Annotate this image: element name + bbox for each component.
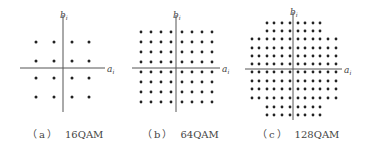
constellation-point [88,77,91,80]
constellation-point [266,106,269,109]
constellation-point [304,97,307,100]
constellation-point [335,63,338,66]
constellation-point [289,114,292,117]
constellation-point [297,63,300,66]
constellation-point [289,30,292,33]
constellation-point [251,80,254,83]
constellation-point [251,55,254,58]
constellation-point [297,71,300,74]
constellation-point [297,88,300,91]
constellation-point [170,71,173,74]
constellation-point [289,80,292,83]
constellation-point [297,97,300,100]
constellation-point [289,71,292,74]
constellation-point [304,88,307,91]
constellation-point [53,77,56,80]
constellation-point [71,41,74,44]
constellation-point [297,22,300,25]
constellation-point [201,41,204,44]
constellation-point [297,114,300,117]
constellation-point [312,114,315,117]
constellation-panel-c: biai [245,7,351,120]
constellation-point [281,38,284,41]
constellation-point [201,91,204,94]
constellation-point [319,55,322,58]
constellation-point [191,71,194,74]
constellation-panel-b: biai [132,10,229,112]
constellation-point [304,80,307,83]
constellation-point [191,81,194,84]
constellation-point [319,63,322,66]
constellation-point [304,71,307,74]
constellation-point [140,81,143,84]
constellation-point [281,97,284,100]
constellation-point [266,47,269,50]
constellation-point [140,71,143,74]
constellation-point [251,88,254,91]
constellation-point [201,101,204,104]
axis-label-b: bi [173,10,181,21]
constellation-point [258,97,261,100]
constellation-point [211,91,214,94]
constellation-point [327,88,330,91]
constellation-point [335,38,338,41]
constellation-point [312,80,315,83]
constellation-point [273,106,276,109]
constellation-point [160,41,163,44]
constellation-point [312,88,315,91]
constellation-point [191,61,194,64]
constellation-point [327,80,330,83]
constellation-point [319,80,322,83]
constellation-point [191,101,194,104]
constellation-point [297,55,300,58]
constellation-point [160,91,163,94]
constellation-point [266,114,269,117]
constellation-point [160,101,163,104]
constellation-point [266,80,269,83]
constellation-point [312,55,315,58]
constellation-point [312,106,315,109]
constellation-point [289,88,292,91]
constellation-point [211,81,214,84]
constellation-point [150,71,153,74]
constellation-point [191,31,194,34]
caption-16qam: （a）16QAM [27,126,103,141]
constellation-point [273,71,276,74]
constellation-point [251,47,254,50]
constellation-point [327,47,330,50]
constellation-point [150,41,153,44]
constellation-point [53,96,56,99]
axis-label-a: ai [107,64,114,75]
constellation-point [140,61,143,64]
constellation-point [170,41,173,44]
constellation-point [35,60,38,63]
constellation-point [251,63,254,66]
constellation-point [266,63,269,66]
constellation-point [304,55,307,58]
constellation-point [140,31,143,34]
constellation-point [88,60,91,63]
constellation-point [327,71,330,74]
constellation-point [150,81,153,84]
constellation-point [281,47,284,50]
constellation-point [35,41,38,44]
constellation-point [191,41,194,44]
constellation-point [181,31,184,34]
constellation-point [281,114,284,117]
caption-64qam: （b）64QAM [142,126,219,141]
constellation-point [140,91,143,94]
constellation-point [281,80,284,83]
constellation-point [150,91,153,94]
constellation-point [319,97,322,100]
constellation-point [201,51,204,54]
constellation-point [289,97,292,100]
constellation-point [170,51,173,54]
constellation-point [258,38,261,41]
constellation-point [289,38,292,41]
constellation-point [53,60,56,63]
constellation-point [304,47,307,50]
constellation-point [304,38,307,41]
constellation-point [289,47,292,50]
constellation-point [201,61,204,64]
constellation-point [266,22,269,25]
